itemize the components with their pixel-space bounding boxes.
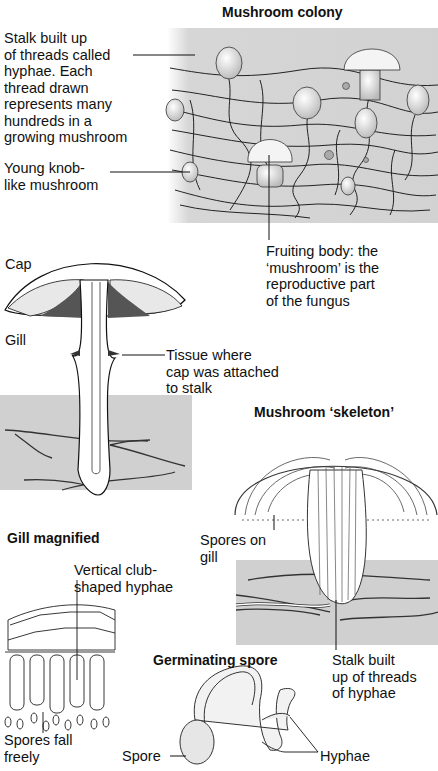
skeleton-title: Mushroom ‘skeleton’ — [254, 404, 394, 420]
label-cap: Cap — [5, 256, 32, 273]
mushroom-section-illustration — [0, 264, 192, 495]
label-tissue: Tissue where cap was attached to stalk — [166, 347, 279, 397]
label-young-knob: Young knob- like mushroom — [4, 160, 98, 193]
germinating-spore-title: Germinating spore — [153, 652, 277, 668]
label-spores-on-gill: Spores on gill — [200, 532, 266, 565]
label-spores-fall: Spores fall freely — [4, 732, 73, 765]
label-club-hyphae: Vertical club- shaped hyphae — [74, 562, 173, 595]
gill-magnified-title: Gill magnified — [7, 530, 100, 546]
label-hyphae: Hyphae — [320, 748, 370, 765]
label-stalk-threads: Stalk built up of threads called hyphae.… — [4, 30, 127, 146]
germinating-spore-illustration — [170, 666, 318, 764]
colony-title: Mushroom colony — [222, 4, 343, 20]
colony-illustration — [110, 28, 438, 240]
label-stalk-hyphae: Stalk built up of threads of hyphae — [332, 652, 417, 702]
gill-magnified-illustration — [5, 580, 115, 733]
label-gill: Gill — [5, 332, 26, 349]
label-fruiting-body: Fruiting body: the ‘mushroom’ is the rep… — [266, 243, 379, 309]
label-spore: Spore — [122, 748, 161, 765]
